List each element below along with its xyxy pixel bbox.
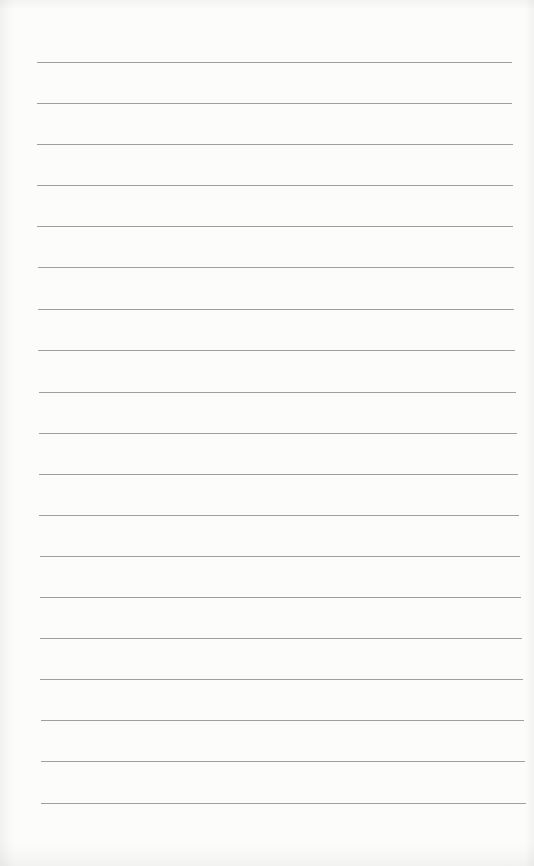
- ruled-line: [39, 392, 516, 393]
- ruled-line: [40, 556, 520, 557]
- ruled-line: [41, 720, 524, 721]
- ruled-line: [40, 597, 521, 598]
- ruled-line: [41, 761, 525, 762]
- ruled-line: [39, 515, 519, 516]
- ruled-line: [39, 433, 517, 434]
- ruled-line: [40, 638, 522, 639]
- ruled-line: [37, 62, 512, 63]
- ruled-line: [39, 474, 518, 475]
- lined-paper-sheet: [0, 0, 534, 866]
- ruled-line: [38, 267, 514, 268]
- ruled-line: [41, 803, 526, 804]
- ruled-line: [38, 350, 515, 351]
- ruled-line: [38, 309, 514, 310]
- ruled-line: [40, 679, 523, 680]
- ruled-line: [37, 144, 513, 145]
- ruled-line: [37, 185, 513, 186]
- ruled-line: [37, 103, 512, 104]
- ruled-line: [37, 226, 513, 227]
